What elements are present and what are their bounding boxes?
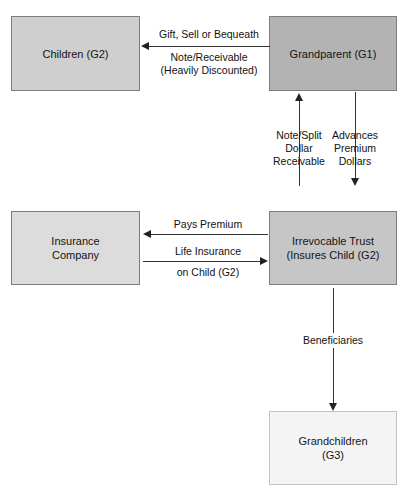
node-irrevocable-trust: Irrevocable Trust (Insures Child (G2) bbox=[269, 211, 397, 285]
node-irrevocable-trust-line2: (Insures Child (G2) bbox=[287, 248, 380, 262]
node-grandchildren-line1: Grandchildren bbox=[298, 434, 367, 448]
edge-advances-label-line2: Premium bbox=[309, 142, 401, 155]
edge-beneficiaries-label: Beneficiaries bbox=[285, 333, 381, 348]
edge-pays-premium-arrowhead-left-icon bbox=[143, 230, 151, 238]
edge-life-insurance-arrowhead-right-icon bbox=[260, 257, 268, 265]
diagram-title: INTER-GENERATIONAL SPLIT DOLLAR bbox=[0, 0, 411, 3]
edge-beneficiaries-arrowhead-down-icon bbox=[329, 403, 337, 411]
edge-gift-arrowhead-left-icon bbox=[141, 42, 149, 50]
node-grandchildren: Grandchildren (G3) bbox=[269, 411, 397, 485]
node-children: Children (G2) bbox=[11, 16, 140, 91]
node-grandchildren-label: Grandchildren (G3) bbox=[298, 434, 367, 462]
node-insurance-company-line2: Company bbox=[51, 248, 99, 262]
node-grandparent: Grandparent (G1) bbox=[269, 16, 397, 91]
split-dollar-diagram: INTER-GENERATIONAL SPLIT DOLLAR Children… bbox=[0, 0, 411, 492]
edge-gift-label-below-line1: Note/Receivable bbox=[145, 51, 273, 64]
node-grandparent-label: Grandparent (G1) bbox=[290, 47, 377, 61]
edge-gift-label-below-line2: (Heavily Discounted) bbox=[141, 64, 277, 77]
edge-advances-label-line1: Advances bbox=[309, 129, 401, 142]
edge-advances-arrowhead-down-icon bbox=[351, 178, 359, 186]
edge-note-split-arrowhead-up-icon bbox=[295, 93, 303, 101]
node-insurance-company-line1: Insurance bbox=[51, 234, 99, 248]
edge-life-insurance-line bbox=[143, 261, 261, 262]
edge-gift-line bbox=[148, 46, 270, 47]
edge-advances-label-line3: Dollars bbox=[309, 155, 401, 168]
node-insurance-company: Insurance Company bbox=[11, 211, 140, 285]
node-irrevocable-trust-label: Irrevocable Trust (Insures Child (G2) bbox=[287, 234, 380, 262]
edge-pays-premium-line bbox=[150, 234, 268, 235]
node-children-label: Children (G2) bbox=[42, 47, 108, 61]
edge-life-insurance-label-below: on Child (G2) bbox=[145, 266, 271, 279]
node-grandchildren-line2: (G3) bbox=[298, 448, 367, 462]
edge-pays-premium-label: Pays Premium bbox=[145, 218, 271, 231]
node-irrevocable-trust-line1: Irrevocable Trust bbox=[287, 234, 380, 248]
edge-life-insurance-label-above: Life Insurance bbox=[145, 245, 271, 258]
node-insurance-company-label: Insurance Company bbox=[51, 234, 99, 262]
edge-gift-label-above: Gift, Sell or Bequeath bbox=[145, 28, 273, 41]
